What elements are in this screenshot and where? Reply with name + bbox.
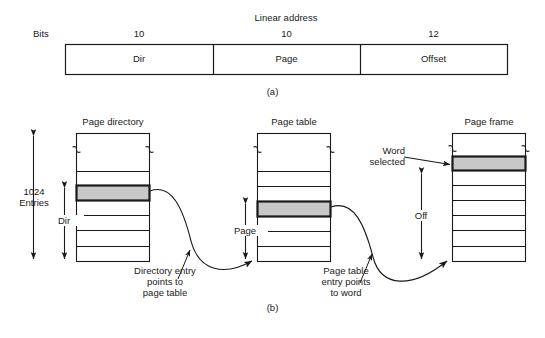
bits-label: Bits [33,28,49,39]
page-index-label: Page [222,225,268,236]
page-frame-selected-word [453,157,526,171]
field-label-offset: Offset [360,53,507,64]
linear-address-title: Linear address [65,12,507,23]
caption-b: (b) [0,302,545,313]
connector-2-caption: Page table entry points to word [297,265,395,298]
dir-index-label: Dir [44,215,84,226]
off-index-label: Off [400,210,442,221]
word-selected-callout: Word selected [355,145,405,167]
page-directory-selected-entry [77,186,150,201]
page-frame-title: Page frame [434,116,544,127]
caption-a: (a) [0,86,545,97]
field-label-dir: Dir [65,53,213,64]
page-directory-table [73,134,154,262]
page-table-selected-entry [258,202,331,217]
page-table-title: Page table [239,116,349,127]
field-label-page: Page [213,53,360,64]
page-frame-table [449,134,530,262]
word-selected-leader [404,157,450,165]
entries-count-label: 1024 Entries [8,186,60,208]
figure-vector-layer [0,0,545,338]
bits-count-offset: 12 [360,28,507,39]
bits-count-dir: 10 [65,28,213,39]
memory-paging-figure: Linear address Bits 10 10 12 Dir Page Of… [0,0,545,338]
page-directory-title: Page directory [58,116,168,127]
page-table-table [254,134,335,262]
connector-1-caption: Directory entry points to page table [110,265,220,298]
bits-count-page: 10 [213,28,360,39]
